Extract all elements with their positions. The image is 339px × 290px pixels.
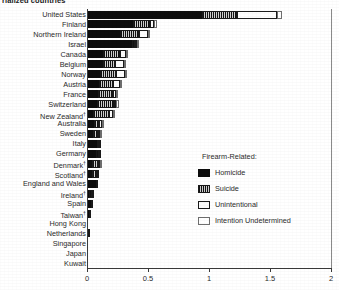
bar-segment-homicide bbox=[87, 70, 100, 78]
bar-segment-suicide bbox=[89, 210, 91, 218]
country-label: Kuwait bbox=[64, 258, 86, 269]
bar-segment-suicide bbox=[99, 80, 112, 88]
bar-segment-undetermined bbox=[277, 11, 282, 19]
bar-segment-homicide bbox=[87, 11, 202, 19]
x-tick bbox=[209, 268, 210, 272]
legend-label: Suicide bbox=[215, 184, 239, 193]
bar-segment-suicide bbox=[97, 100, 114, 108]
bar-segment-suicide bbox=[100, 70, 116, 78]
bar-segment-unintentional bbox=[92, 190, 94, 198]
legend-entry: Intention Undetermined bbox=[198, 216, 330, 225]
stacked-bar bbox=[87, 170, 99, 178]
stacked-bar bbox=[87, 70, 127, 78]
bar-segment-unintentional bbox=[99, 150, 101, 158]
bar-segment-undetermined bbox=[100, 160, 102, 168]
bar-segment-undetermined bbox=[125, 70, 127, 78]
bar-segment-undetermined bbox=[100, 130, 102, 138]
stacked-bar bbox=[87, 60, 126, 68]
bar-segment-unintentional bbox=[113, 80, 120, 88]
x-tick-label: 1.5 bbox=[265, 274, 275, 283]
bar-segment-undetermined bbox=[113, 110, 115, 118]
bar-segment-homicide bbox=[87, 120, 94, 128]
stacked-bar bbox=[87, 120, 104, 128]
bar-segment-suicide bbox=[96, 180, 98, 188]
stacked-bar bbox=[87, 20, 157, 28]
bar-segment-unintentional bbox=[99, 140, 101, 148]
bar-segment-homicide bbox=[87, 180, 96, 188]
legend-entry: Homicide bbox=[198, 168, 330, 177]
bar-segment-undetermined bbox=[154, 20, 156, 28]
bar-segment-suicide bbox=[98, 90, 113, 98]
stacked-bar bbox=[87, 80, 122, 88]
stacked-bar bbox=[87, 130, 102, 138]
legend-label: Unintentional bbox=[215, 200, 258, 209]
x-tick-label: 0.5 bbox=[143, 274, 153, 283]
x-tick-label: 0 bbox=[85, 274, 89, 283]
legend-entries-group: HomicideSuicideUnintentionalIntention Un… bbox=[198, 168, 330, 225]
bar-segment-homicide bbox=[87, 50, 103, 58]
bar-segment-undetermined bbox=[124, 60, 126, 68]
legend-swatch-undetermined bbox=[198, 217, 210, 225]
x-tick bbox=[270, 268, 271, 272]
legend-entry: Suicide bbox=[198, 184, 330, 193]
stacked-bar bbox=[87, 110, 115, 118]
stacked-bar bbox=[87, 100, 119, 108]
stacked-bar bbox=[87, 90, 118, 98]
legend-title: Firearm-Related: bbox=[202, 152, 330, 161]
x-tick-label: 2 bbox=[329, 274, 333, 283]
bar-segment-undetermined bbox=[126, 50, 128, 58]
bar-segment-suicide bbox=[93, 110, 109, 118]
plot-right-border bbox=[331, 9, 332, 268]
stacked-bar bbox=[87, 140, 101, 148]
bar-segment-undetermined bbox=[120, 80, 122, 88]
bar-segment-suicide bbox=[88, 229, 90, 237]
bar-segment-suicide bbox=[91, 200, 93, 208]
bar-segment-undetermined bbox=[137, 40, 139, 48]
bar-segment-homicide bbox=[87, 60, 103, 68]
y-axis-line bbox=[87, 9, 88, 268]
bar-segment-homicide bbox=[87, 20, 133, 28]
stacked-bar bbox=[87, 30, 150, 38]
stacked-bar bbox=[87, 40, 139, 48]
legend-label: Homicide bbox=[215, 168, 245, 177]
x-tick bbox=[148, 268, 149, 272]
bar-segment-homicide bbox=[87, 90, 98, 98]
bar-segment-undetermined bbox=[116, 100, 118, 108]
bar-segment-suicide bbox=[120, 30, 140, 38]
stacked-bar bbox=[87, 50, 128, 58]
stacked-bar bbox=[87, 180, 98, 188]
bar-segment-homicide bbox=[87, 40, 132, 48]
chart-title: rialized countries bbox=[2, 0, 182, 5]
bar-segment-homicide bbox=[87, 30, 120, 38]
bar-segment-homicide bbox=[87, 150, 96, 158]
bar-segment-undetermined bbox=[102, 120, 104, 128]
bar-segment-homicide bbox=[87, 80, 99, 88]
stacked-bar bbox=[87, 150, 101, 158]
x-tick bbox=[87, 268, 88, 272]
bar-segment-unintentional bbox=[237, 11, 277, 19]
bar-segment-unintentional bbox=[115, 60, 124, 68]
firearm-death-rate-chart: rialized countries United StatesFinlandN… bbox=[0, 0, 339, 290]
bar-segment-suicide bbox=[103, 60, 115, 68]
legend-swatch-unintentional bbox=[198, 201, 210, 209]
bar-segment-homicide bbox=[87, 140, 97, 148]
bar-segment-unintentional bbox=[116, 70, 125, 78]
bar-segment-unintentional bbox=[139, 30, 148, 38]
legend-swatch-homicide bbox=[198, 169, 210, 177]
legend-entry: Unintentional bbox=[198, 200, 330, 209]
bar-segment-undetermined bbox=[116, 90, 118, 98]
legend-label: Intention Undetermined bbox=[215, 216, 291, 225]
bar-segment-undetermined bbox=[148, 30, 150, 38]
bar-segment-suicide bbox=[133, 20, 150, 28]
bar-segment-homicide bbox=[87, 100, 97, 108]
legend-swatch-suicide bbox=[198, 185, 210, 193]
legend: Firearm-Related: HomicideSuicideUnintent… bbox=[198, 152, 330, 232]
x-tick bbox=[331, 268, 332, 272]
bar-segment-unintentional bbox=[97, 170, 99, 178]
bar-segment-suicide bbox=[202, 11, 237, 19]
stacked-bar bbox=[87, 160, 102, 168]
x-tick-label: 1 bbox=[207, 274, 211, 283]
bar-segment-suicide bbox=[103, 50, 120, 58]
stacked-bar bbox=[87, 190, 94, 198]
stacked-bar bbox=[87, 11, 282, 19]
